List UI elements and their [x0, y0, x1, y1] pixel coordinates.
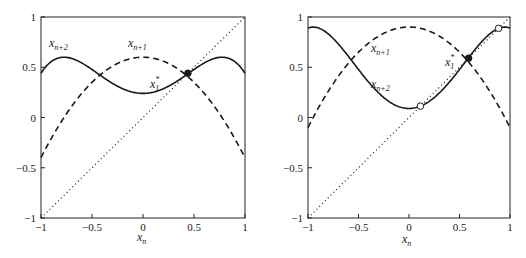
x-tick-label: 0.5 [187, 221, 201, 233]
two-cycle-marker [495, 25, 502, 32]
left-panel: −1−0.500.51−1−0.500.51 xn+2 xn+1 x1* xn [16, 11, 248, 246]
left-label-x-n-plus-1: xn+1 [127, 36, 147, 52]
x-tick-label: −1 [35, 221, 47, 233]
right-axes-frame [308, 17, 510, 218]
series-dashed-line [41, 57, 245, 158]
y-tick-label: 0.5 [289, 61, 303, 73]
y-tick-label: 0.5 [22, 61, 36, 73]
right-curves [308, 17, 510, 218]
x-tick-label: −0.5 [349, 221, 369, 233]
series-solid-line [41, 57, 245, 93]
y-tick-label: 0 [298, 112, 304, 124]
x-tick-label: 0.5 [453, 221, 467, 233]
x-tick-label: 1 [507, 221, 513, 233]
y-tick-label: −1 [24, 212, 36, 224]
y-tick-label: 1 [298, 11, 304, 23]
right-axis-ticks: −1−0.500.51−1−0.500.51 [283, 11, 513, 233]
two-cycle-marker [417, 103, 424, 110]
right-x-axis-label: xn [401, 232, 411, 248]
right-panel: −1−0.500.51−1−0.500.51 xn+2 xn+1 x1* xn [283, 11, 513, 248]
y-tick-label: 0 [31, 112, 37, 124]
y-tick-label: −0.5 [283, 162, 303, 174]
x-tick-label: −0.5 [82, 221, 102, 233]
chart-canvas: −1−0.500.51−1−0.500.51 xn+2 xn+1 x1* xn … [0, 0, 526, 258]
left-label-fixed-point: x1* [149, 75, 159, 93]
right-label-fixed-point: x1* [444, 53, 454, 71]
fixed-point-marker [465, 55, 472, 62]
y-tick-label: 1 [31, 11, 37, 23]
right-label-x-n-plus-2: xn+2 [370, 77, 390, 93]
x-tick-label: 1 [242, 221, 248, 233]
y-tick-label: −1 [291, 212, 303, 224]
right-label-x-n-plus-1: xn+1 [370, 41, 390, 57]
figure: −1−0.500.51−1−0.500.51 xn+2 xn+1 x1* xn … [0, 0, 526, 258]
series-solid-line [308, 27, 510, 108]
series-dotted-line [308, 17, 510, 218]
left-label-x-n-plus-2: xn+2 [48, 36, 68, 52]
y-tick-label: −0.5 [16, 162, 36, 174]
series-dashed-line [308, 27, 510, 128]
fixed-point-marker [185, 70, 192, 77]
x-tick-label: −1 [302, 221, 314, 233]
